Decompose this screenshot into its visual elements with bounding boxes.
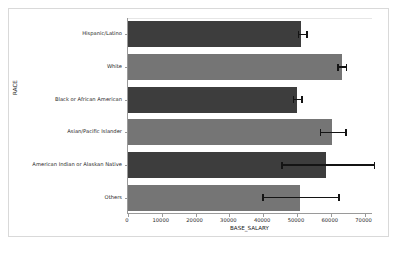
bar	[128, 119, 332, 145]
error-bar-cap-low	[337, 64, 339, 71]
y-tick-label: American Indian or Alaskan Native	[32, 162, 122, 167]
error-bar-cap-low	[281, 162, 283, 169]
y-tick-mark	[125, 34, 128, 35]
x-axis-label: BASE_SALARY	[127, 226, 372, 232]
error-bar-cap-low	[298, 31, 300, 38]
y-tick-mark	[125, 198, 128, 199]
y-tick-mark	[125, 132, 128, 133]
error-bar-cap-low	[320, 129, 322, 136]
plot-area	[127, 18, 372, 214]
error-bar	[282, 164, 375, 166]
bar	[128, 87, 297, 113]
figure: BASE_SALARY RACE Hispanic/LatinoWhiteBla…	[0, 0, 399, 254]
error-bar-cap-low	[293, 96, 295, 103]
y-tick-label: White	[107, 64, 122, 69]
x-tick-label: 20000	[186, 218, 203, 223]
error-bar-cap-low	[262, 194, 264, 201]
error-bar-cap-high	[306, 31, 308, 38]
y-tick-mark	[125, 67, 128, 68]
y-axis-label: RACE	[13, 80, 19, 95]
x-tick-label: 10000	[153, 218, 170, 223]
x-tick-label: 50000	[288, 218, 305, 223]
x-tick-label: 30000	[220, 218, 237, 223]
error-bar-cap-high	[374, 162, 376, 169]
error-bar	[321, 132, 346, 134]
x-tick-label: 0	[125, 218, 128, 223]
error-bar	[263, 197, 339, 199]
y-tick-label: Hispanic/Latino	[82, 31, 122, 36]
y-tick-label: Others	[105, 195, 122, 200]
bar	[128, 21, 301, 47]
y-tick-mark	[125, 100, 128, 101]
bar	[128, 54, 342, 80]
error-bar-cap-high	[301, 96, 303, 103]
y-tick-mark	[125, 165, 128, 166]
x-tick-label: 70000	[355, 218, 372, 223]
x-tick-label: 40000	[254, 218, 271, 223]
error-bar-cap-high	[345, 129, 347, 136]
error-bar-cap-high	[346, 64, 348, 71]
error-bar-cap-high	[338, 194, 340, 201]
x-tick-label: 60000	[321, 218, 338, 223]
y-tick-label: Black or African American	[55, 97, 122, 102]
y-tick-label: Asian/Pacific Islander	[67, 129, 122, 134]
